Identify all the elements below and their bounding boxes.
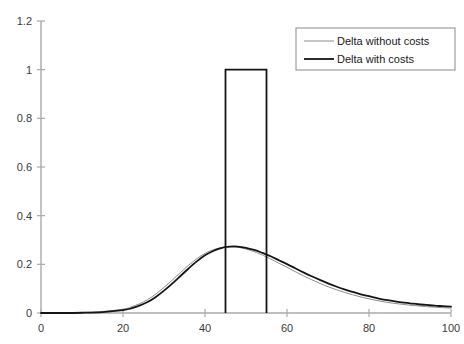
x-tick-label: 40 [199, 322, 211, 334]
legend-item-label: Delta without costs [337, 35, 430, 47]
y-tick-label: 0.6 [17, 161, 32, 173]
series-line [41, 247, 451, 313]
x-tick-label: 60 [281, 322, 293, 334]
chart-container: 00.20.40.60.811.2 020406080100 Delta wit… [0, 0, 464, 344]
data-series-group [41, 246, 451, 313]
y-tick-label: 1 [26, 64, 32, 76]
legend-item-label: Delta with costs [337, 53, 415, 65]
x-tick-label: 80 [363, 322, 375, 334]
x-tick-label: 100 [442, 322, 460, 334]
y-tick-label: 1.2 [17, 15, 32, 27]
y-tick-label: 0 [26, 307, 32, 319]
line-chart: 00.20.40.60.811.2 020406080100 Delta wit… [0, 0, 464, 344]
x-tick-label: 20 [117, 322, 129, 334]
pulse-outline [226, 70, 267, 313]
y-tick-label: 0.2 [17, 258, 32, 270]
y-tick-label: 0.4 [17, 210, 32, 222]
rectangular-pulse-group [226, 70, 267, 313]
x-tick-label: 0 [38, 322, 44, 334]
chart-legend: Delta without costsDelta with costs [296, 28, 455, 70]
y-tick-label: 0.8 [17, 112, 32, 124]
